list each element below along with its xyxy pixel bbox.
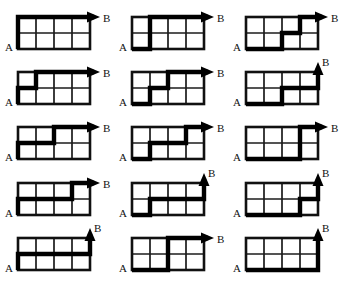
lattice-diagram: AB: [116, 117, 230, 172]
lattice-diagram: AB: [116, 6, 230, 61]
lattice-diagram: AB: [230, 172, 343, 227]
arrow-head-icon: [315, 122, 328, 133]
label-end-b: B: [217, 233, 224, 245]
label-start-a: A: [233, 206, 241, 218]
lattice-diagram: AB: [116, 61, 230, 116]
label-start-a: A: [119, 206, 127, 218]
label-end-b: B: [217, 67, 224, 79]
lattice-diagram: AB: [230, 6, 343, 61]
lattice-diagram: AB: [2, 61, 116, 116]
label-end-b: B: [217, 122, 224, 134]
lattice-diagram-svg: AB: [2, 175, 116, 225]
lattice-diagram-svg: AB: [2, 230, 116, 280]
label-start-a: A: [233, 151, 241, 163]
label-start-a: A: [233, 40, 241, 52]
label-start-a: A: [233, 262, 241, 274]
lattice-diagram-svg: AB: [230, 64, 343, 114]
label-end-b: B: [331, 11, 338, 23]
grid-lines: [18, 17, 90, 49]
grid-lines: [132, 17, 204, 49]
lattice-diagram: AB: [116, 172, 230, 227]
grid-lines: [246, 127, 318, 159]
arrow-head-icon: [87, 11, 100, 22]
lattice-diagram-svg: AB: [230, 9, 343, 59]
label-start-a: A: [5, 206, 13, 218]
lattice-diagram-svg: AB: [230, 230, 343, 280]
lattice-diagram-svg: AB: [230, 119, 343, 169]
label-end-b: B: [322, 166, 329, 178]
label-end-b: B: [322, 56, 329, 68]
lattice-diagram: AB: [2, 172, 116, 227]
lattice-diagram: AB: [2, 6, 116, 61]
label-start-a: A: [5, 40, 13, 52]
arrow-head-icon: [87, 67, 100, 78]
lattice-diagram-svg: AB: [2, 119, 116, 169]
label-end-b: B: [103, 11, 110, 23]
label-start-a: A: [119, 96, 127, 108]
arrow-head-icon: [201, 11, 214, 22]
label-end-b: B: [103, 67, 110, 79]
lattice-diagram-svg: AB: [116, 64, 230, 114]
grid-lines: [246, 238, 318, 270]
lattice-diagram: AB: [230, 61, 343, 116]
label-end-b: B: [103, 122, 110, 134]
lattice-diagram-svg: AB: [116, 230, 230, 280]
lattice-diagram: AB: [230, 117, 343, 172]
label-end-b: B: [208, 166, 215, 178]
arrow-head-icon: [201, 233, 214, 244]
label-end-b: B: [217, 11, 224, 23]
label-start-a: A: [5, 262, 13, 274]
label-start-a: A: [119, 151, 127, 163]
lattice-diagram-svg: AB: [2, 9, 116, 59]
arrow-head-icon: [201, 67, 214, 78]
label-end-b: B: [322, 222, 329, 234]
lattice-diagram: AB: [2, 228, 116, 283]
lattice-diagram-svg: AB: [230, 175, 343, 225]
lattice-diagram-svg: AB: [2, 64, 116, 114]
lattice-diagram-svg: AB: [116, 9, 230, 59]
label-start-a: A: [119, 262, 127, 274]
arrow-head-icon: [87, 177, 100, 188]
label-end-b: B: [94, 222, 101, 234]
lattice-diagram: AB: [116, 228, 230, 283]
label-end-b: B: [103, 177, 110, 189]
label-start-a: A: [233, 96, 241, 108]
label-start-a: A: [119, 40, 127, 52]
lattice-diagram-svg: AB: [116, 175, 230, 225]
lattice-diagram: AB: [230, 228, 343, 283]
label-start-a: A: [5, 151, 13, 163]
lattice-diagram-svg: AB: [116, 119, 230, 169]
label-start-a: A: [5, 96, 13, 108]
arrow-head-icon: [201, 122, 214, 133]
lattice-diagram: AB: [2, 117, 116, 172]
label-end-b: B: [331, 122, 338, 134]
arrow-head-icon: [315, 11, 328, 22]
arrow-head-icon: [87, 122, 100, 133]
